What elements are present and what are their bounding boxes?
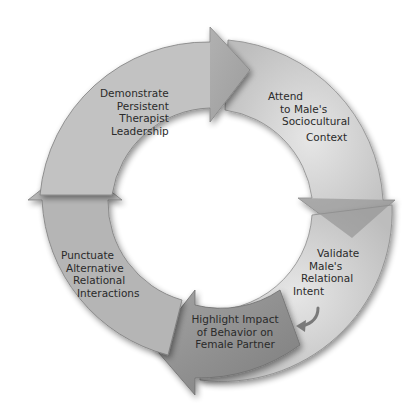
cycle-ring <box>0 0 413 418</box>
step-demonstrate-label: Demonstrate Persistent Therapist Leaders… <box>72 87 169 137</box>
step-punctuate-label: Punctuate Alternative Relational Interac… <box>61 249 139 299</box>
step-attend-label: Attend to Male's Sociocultural Context <box>268 90 350 143</box>
step-highlight-label: Highlight Impact of Behavior on Female P… <box>185 313 285 351</box>
step-validate-label: Validate Male's Relational Intent <box>293 247 359 297</box>
cycle-diagram: Demonstrate Persistent Therapist Leaders… <box>0 0 413 418</box>
